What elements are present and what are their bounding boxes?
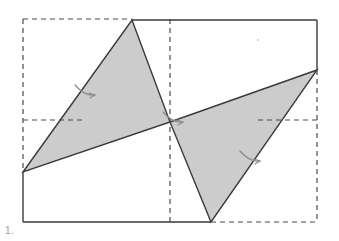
- stray-speck: [257, 39, 259, 41]
- figure-number-label: 1.: [5, 225, 14, 237]
- geometry-figure-root: 1.: [0, 0, 339, 241]
- geometry-diagram-canvas: [0, 0, 339, 241]
- left-triangle: [23, 20, 170, 172]
- right-triangle: [170, 70, 317, 222]
